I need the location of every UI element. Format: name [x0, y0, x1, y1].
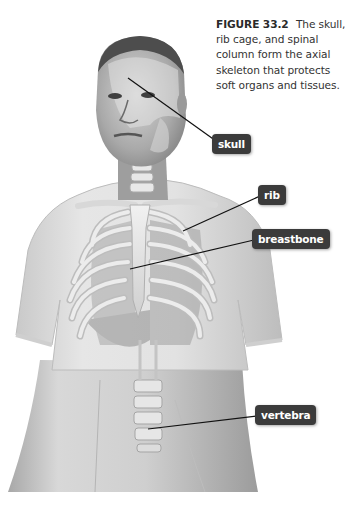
- label-breastbone: breastbone: [252, 229, 330, 249]
- head: [96, 36, 187, 167]
- lower-body: [8, 360, 258, 492]
- figure-number: FIGURE 33.2: [216, 18, 289, 30]
- figure-caption: FIGURE 33.2 The skull, rib cage, and spi…: [216, 17, 346, 93]
- label-rib: rib: [258, 185, 286, 205]
- label-vertebra: vertebra: [255, 405, 316, 425]
- label-skull: skull: [212, 134, 251, 154]
